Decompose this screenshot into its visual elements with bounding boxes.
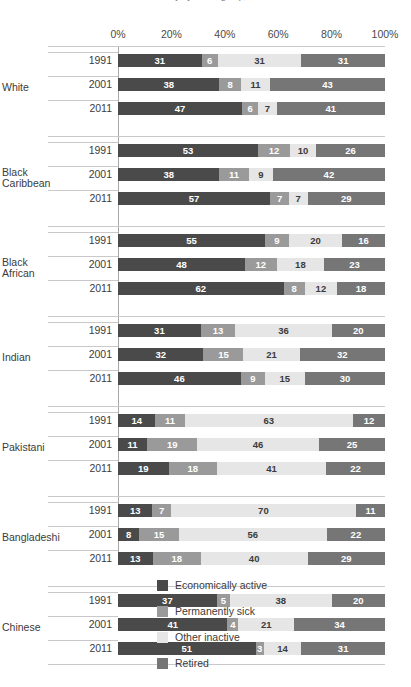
stacked-bar: 4691530	[118, 372, 385, 385]
bar-segment: 19	[118, 462, 169, 475]
stacked-bar: 6281218	[118, 282, 385, 295]
legend-item[interactable]: Permanently sick	[157, 604, 255, 618]
legend-item[interactable]: Other inactive	[157, 630, 240, 644]
bar-segment: 18	[153, 552, 201, 565]
row-separator-rule	[48, 100, 118, 101]
bar-row: 2011476741	[0, 100, 411, 118]
bar-segment-value: 32	[155, 349, 166, 360]
bar-row: 20116281218	[0, 280, 411, 298]
year-label: 2001	[62, 348, 112, 360]
bar-group: BlackCaribbean19915312102620013811942201…	[0, 136, 411, 214]
bar-segment: 41	[217, 462, 326, 475]
bar-segment-value: 20	[353, 325, 364, 336]
legend-item[interactable]: Retired	[157, 656, 209, 670]
bar-segment-value: 11	[250, 79, 260, 90]
bar-segment: 19	[147, 438, 197, 451]
axis-tick-label: 40%	[214, 28, 235, 40]
stacked-bar: 577729	[118, 192, 385, 205]
bar-segment-value: 15	[154, 529, 165, 540]
bar-segment: 11	[356, 504, 385, 517]
bar-segment-value: 9	[258, 169, 263, 180]
bar-segment-value: 8	[292, 283, 297, 294]
row-separator-rule	[48, 166, 118, 167]
bar-row: 20013881143	[0, 76, 411, 94]
bar-segment: 25	[319, 438, 385, 451]
bar-segment: 11	[241, 78, 270, 91]
bar-segment-value: 7	[159, 505, 164, 516]
bar-segment: 9	[249, 168, 273, 181]
row-separator-rule	[48, 256, 118, 257]
legend-label: Retired	[175, 657, 209, 669]
bar-segment: 38	[118, 78, 219, 91]
year-label: 2001	[62, 618, 112, 630]
bar-row: 200148121823	[0, 256, 411, 274]
bar-segment-value: 11	[365, 505, 375, 516]
bar-row: 19911377011	[0, 502, 411, 520]
bar-row: 19915592016	[0, 232, 411, 250]
bar-row: 199153121026	[0, 142, 411, 160]
bar-segment: 18	[337, 282, 385, 295]
bar-segment: 8	[284, 282, 305, 295]
bar-segment-value: 21	[261, 619, 272, 630]
bar-segment: 20	[332, 594, 385, 607]
bar-segment-value: 56	[248, 529, 259, 540]
bar-segment-value: 31	[154, 325, 165, 336]
row-separator-rule	[48, 346, 118, 347]
year-label: 2011	[62, 192, 112, 204]
bar-row: 199131133620	[0, 322, 411, 340]
bar-segment: 7	[270, 192, 289, 205]
bar-segment: 31	[301, 642, 385, 655]
stacked-bar: 31133620	[118, 324, 385, 337]
bar-segment-value: 11	[229, 169, 239, 180]
bar-segment: 36	[235, 324, 331, 337]
bar-segment-value: 38	[163, 79, 174, 90]
bar-segment-value: 20	[310, 235, 321, 246]
bar-segment: 31	[301, 54, 385, 67]
bar-row: 201113184029	[0, 550, 411, 568]
stacked-bar: 3811942	[118, 168, 385, 181]
legend-swatch-icon	[157, 580, 168, 591]
legend-item[interactable]: Economically active	[157, 578, 267, 592]
stacked-bar: 13184029	[118, 552, 385, 565]
bar-segment: 22	[326, 462, 385, 475]
bar-segment-value: 4	[230, 619, 235, 630]
bar-segment-value: 41	[167, 619, 178, 630]
bar-segment: 38	[118, 168, 219, 181]
bar-segment: 20	[289, 234, 342, 247]
bar-segment-value: 12	[269, 145, 280, 156]
bar-segment-value: 19	[138, 463, 149, 474]
bar-segment: 13	[118, 552, 153, 565]
bar-segment: 32	[300, 348, 385, 361]
stacked-bar: 48121823	[118, 258, 385, 271]
legend-swatch-icon	[157, 606, 168, 617]
bar-group: Bangladeshi19911377011200181556222011131…	[0, 496, 411, 574]
bar-segment-value: 19	[167, 439, 178, 450]
bar-segment: 70	[171, 504, 356, 517]
bar-segment-value: 62	[195, 283, 206, 294]
bar-segment-value: 43	[322, 79, 333, 90]
bar-segment: 47	[118, 102, 242, 115]
bar-segment: 13	[201, 324, 236, 337]
year-label: 1991	[62, 594, 112, 606]
group-separator-rule	[48, 316, 385, 317]
bar-segment: 8	[118, 528, 139, 541]
bar-segment: 46	[197, 438, 319, 451]
stacked-bar: 14116312	[118, 414, 385, 427]
year-label: 1991	[62, 414, 112, 426]
group-separator-rule	[48, 496, 385, 497]
bar-segment-value: 7	[296, 193, 301, 204]
bar-segment: 46	[118, 372, 241, 385]
year-label: 2001	[62, 258, 112, 270]
bar-segment-value: 3	[257, 643, 262, 654]
bar-segment-value: 11	[128, 439, 138, 450]
axis-tick-label: 100%	[372, 28, 399, 40]
row-separator-rule	[48, 232, 118, 233]
bar-segment: 7	[258, 102, 277, 115]
bar-segment-value: 29	[341, 193, 352, 204]
row-separator-rule	[48, 52, 118, 53]
bar-segment-value: 15	[280, 373, 291, 384]
row-separator-rule	[48, 526, 118, 527]
bar-group: White19913163131200138811432011476741	[0, 46, 411, 124]
bar-segment-value: 70	[258, 505, 269, 516]
bar-segment-value: 36	[278, 325, 289, 336]
